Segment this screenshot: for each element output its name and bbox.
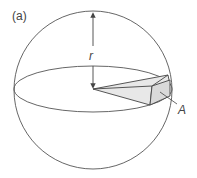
solid-angle-wedge <box>93 75 170 105</box>
radius-label: r <box>89 49 94 63</box>
area-label: A <box>177 103 186 117</box>
panel-label: (a) <box>12 9 27 23</box>
sphere-diagram: (a) r A <box>0 0 197 178</box>
